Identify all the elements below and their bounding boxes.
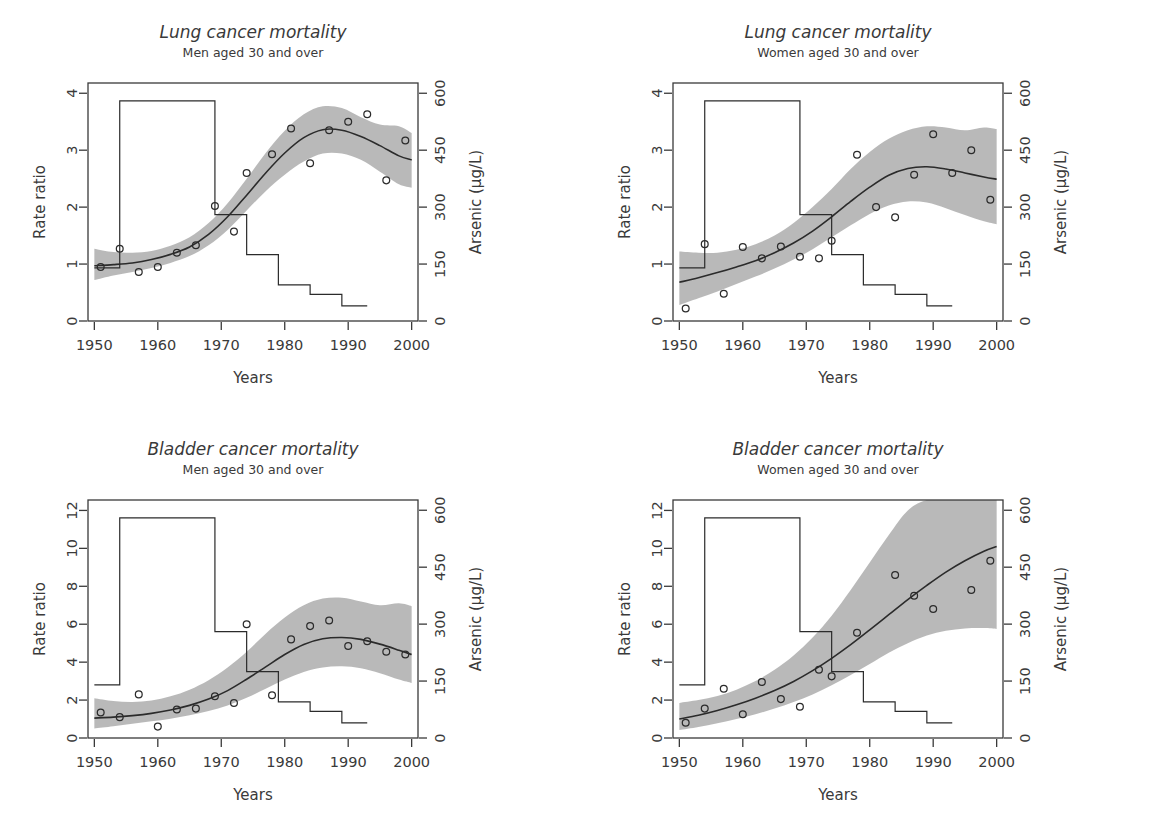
y-axis-label: Rate ratio bbox=[31, 165, 49, 239]
y-axis-label: Rate ratio bbox=[616, 165, 634, 239]
y-tick-label: 4 bbox=[64, 89, 80, 98]
x-tick-label: 1990 bbox=[915, 754, 952, 770]
y-axis-label: Rate ratio bbox=[616, 582, 634, 656]
y2-axis-label: Arsenic (µg/L) bbox=[467, 150, 485, 254]
y-tick-label: 6 bbox=[64, 620, 80, 629]
data-point bbox=[682, 305, 689, 312]
y-tick-label: 8 bbox=[649, 582, 665, 591]
x-tick-label: 1950 bbox=[76, 754, 113, 770]
y-tick-label: 2 bbox=[649, 695, 665, 704]
confidence-band bbox=[679, 499, 996, 730]
x-tick-label: 2000 bbox=[978, 754, 1015, 770]
data-point bbox=[720, 290, 727, 297]
y2-tick-label: 150 bbox=[432, 667, 448, 695]
y-tick-label: 8 bbox=[64, 582, 80, 591]
confidence-band bbox=[94, 597, 411, 728]
chart-panel-bladder-men: Bladder cancer mortalityMen aged 30 and … bbox=[0, 417, 584, 834]
data-point bbox=[797, 703, 804, 710]
y2-tick-label: 150 bbox=[1017, 667, 1033, 695]
x-tick-label: 2000 bbox=[393, 337, 430, 353]
data-point bbox=[307, 160, 314, 167]
data-point bbox=[243, 621, 250, 628]
x-tick-label: 1990 bbox=[330, 754, 367, 770]
plot-area bbox=[679, 499, 996, 730]
y-tick-label: 6 bbox=[649, 620, 665, 629]
data-point bbox=[231, 228, 238, 235]
y2-axis-label: Arsenic (µg/L) bbox=[1052, 567, 1070, 671]
y-tick-label: 3 bbox=[649, 146, 665, 155]
x-tick-label: 1950 bbox=[661, 337, 698, 353]
data-point bbox=[892, 214, 899, 221]
chart-title: Lung cancer mortality bbox=[159, 22, 347, 42]
y-tick-label: 1 bbox=[64, 259, 80, 268]
x-tick-label: 1990 bbox=[330, 337, 367, 353]
data-point bbox=[243, 170, 250, 177]
plot-area bbox=[679, 101, 996, 312]
y2-tick-label: 600 bbox=[1017, 79, 1033, 107]
x-tick-label: 1950 bbox=[76, 337, 113, 353]
x-axis-label: Years bbox=[817, 786, 858, 804]
x-tick-label: 1970 bbox=[788, 337, 825, 353]
x-axis-label: Years bbox=[232, 369, 273, 387]
chart-title: Bladder cancer mortality bbox=[147, 439, 359, 459]
y2-tick-label: 0 bbox=[432, 316, 448, 325]
chart-subtitle: Men aged 30 and over bbox=[183, 45, 325, 60]
y-tick-label: 10 bbox=[64, 539, 80, 557]
y2-tick-label: 600 bbox=[432, 496, 448, 524]
y-tick-label: 4 bbox=[649, 658, 665, 667]
y-tick-label: 1 bbox=[649, 259, 665, 268]
figure-panel-grid: Lung cancer mortalityMen aged 30 and ove… bbox=[0, 0, 1169, 834]
x-axis-label: Years bbox=[232, 786, 273, 804]
x-tick-label: 1960 bbox=[724, 754, 761, 770]
data-point bbox=[383, 177, 390, 184]
x-tick-label: 1960 bbox=[139, 754, 176, 770]
chart-panel-lung-men: Lung cancer mortalityMen aged 30 and ove… bbox=[0, 0, 584, 417]
x-tick-label: 1990 bbox=[915, 337, 952, 353]
y-tick-label: 0 bbox=[64, 316, 80, 325]
x-tick-label: 2000 bbox=[978, 337, 1015, 353]
y2-axis-label: Arsenic (µg/L) bbox=[467, 567, 485, 671]
y2-tick-label: 600 bbox=[432, 79, 448, 107]
data-point bbox=[269, 692, 276, 699]
chart-title: Lung cancer mortality bbox=[744, 22, 932, 42]
data-point bbox=[816, 255, 823, 262]
y2-tick-label: 450 bbox=[1017, 136, 1033, 164]
y2-tick-label: 450 bbox=[1017, 553, 1033, 581]
y-tick-label: 2 bbox=[649, 203, 665, 212]
confidence-band bbox=[679, 126, 996, 305]
chart-panel-lung-women: Lung cancer mortalityWomen aged 30 and o… bbox=[585, 0, 1169, 417]
x-tick-label: 1980 bbox=[266, 337, 303, 353]
y-tick-label: 2 bbox=[64, 695, 80, 704]
y-tick-label: 3 bbox=[64, 146, 80, 155]
x-tick-label: 2000 bbox=[393, 754, 430, 770]
data-point bbox=[364, 111, 371, 118]
y2-tick-label: 300 bbox=[1017, 193, 1033, 221]
x-axis-label: Years bbox=[817, 369, 858, 387]
data-point bbox=[154, 723, 161, 730]
confidence-band bbox=[94, 106, 411, 280]
y2-tick-label: 300 bbox=[432, 193, 448, 221]
y2-tick-label: 150 bbox=[1017, 250, 1033, 278]
y2-tick-label: 450 bbox=[432, 136, 448, 164]
x-tick-label: 1980 bbox=[266, 754, 303, 770]
y2-tick-label: 300 bbox=[1017, 610, 1033, 638]
x-tick-label: 1970 bbox=[203, 337, 240, 353]
y2-tick-label: 0 bbox=[1017, 316, 1033, 325]
y-tick-label: 10 bbox=[649, 539, 665, 557]
chart-subtitle: Women aged 30 and over bbox=[757, 462, 919, 477]
y2-tick-label: 0 bbox=[432, 733, 448, 742]
plot-area bbox=[94, 518, 411, 730]
y-axis-label: Rate ratio bbox=[31, 582, 49, 656]
chart-subtitle: Women aged 30 and over bbox=[757, 45, 919, 60]
y-tick-label: 0 bbox=[64, 733, 80, 742]
data-point bbox=[720, 685, 727, 692]
y-tick-label: 0 bbox=[649, 316, 665, 325]
chart-title: Bladder cancer mortality bbox=[732, 439, 944, 459]
y-tick-label: 0 bbox=[649, 733, 665, 742]
plot-area bbox=[94, 101, 411, 306]
y-tick-label: 4 bbox=[649, 89, 665, 98]
x-tick-label: 1980 bbox=[851, 754, 888, 770]
y-tick-label: 12 bbox=[64, 501, 80, 519]
y2-tick-label: 450 bbox=[432, 553, 448, 581]
y2-tick-label: 600 bbox=[1017, 496, 1033, 524]
